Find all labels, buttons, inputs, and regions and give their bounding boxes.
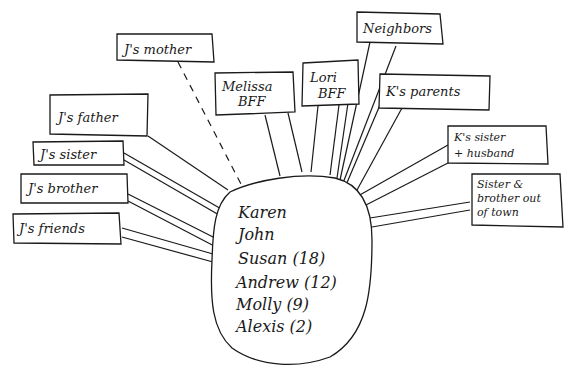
node-k-sister: K's sister + husband [448,126,548,164]
connector-j-brother-b [128,201,218,248]
household-circle [211,176,372,364]
member-andrew: Andrew (12) [234,273,337,292]
member-alexis: Alexis (2) [234,317,312,336]
connector-j-sister-b [124,160,226,219]
node-label-line1: Sister & [477,178,523,191]
node-j-father: J's father [50,94,148,136]
connector-sib-out-a [370,202,470,218]
connector-melissa-a [265,115,280,176]
member-karen: Karen [237,203,287,222]
node-melissa: Melissa BFF [215,72,295,115]
node-label: J's father [55,110,118,125]
node-j-sister: J's sister [33,141,124,165]
member-john: John [235,225,275,244]
node-label: J's brother [25,181,98,196]
node-j-mother: J's mother [117,34,214,62]
node-label-line1: K's sister [453,131,506,144]
node-label: Neighbors [362,21,432,36]
node-label-line2: + husband [454,147,514,160]
node-label-line3: of town [477,206,519,219]
node-neighbors: Neighbors [357,12,443,44]
family-household: Karen John Susan (18) Andrew (12) Molly … [211,176,372,364]
node-label: J's mother [121,42,192,57]
connector-k-parents-b [357,108,402,190]
node-label: K's parents [385,84,461,99]
connector-melissa-b [288,113,302,172]
member-molly: Molly (9) [235,295,309,314]
member-susan: Susan (18) [238,249,325,268]
ecomap-diagram: Karen John Susan (18) Andrew (12) Molly … [0,0,577,375]
node-j-friends: J's friends [13,213,121,244]
node-label-line2: BFF [237,94,267,109]
node-j-brother: J's brother [21,174,128,203]
connector-lori-b [330,105,339,175]
node-label-line2: brother out [477,192,541,205]
connector-j-father [148,136,228,190]
connector-lori-a [311,106,318,172]
node-label-line1: Melissa [221,79,272,94]
node-label: J's sister [37,147,97,162]
node-label: J's friends [16,221,85,236]
connector-j-sister-a [124,153,223,210]
connector-sib-out-b [372,210,470,227]
node-label-line1: Lori [309,70,337,85]
node-sibling-out-of-town: Sister & brother out of town [472,174,563,227]
node-lori: Lori BFF [302,60,359,106]
node-k-parents: K's parents [379,74,490,110]
node-label-line2: BFF [317,86,347,101]
connector-k-parents-a [346,105,380,185]
